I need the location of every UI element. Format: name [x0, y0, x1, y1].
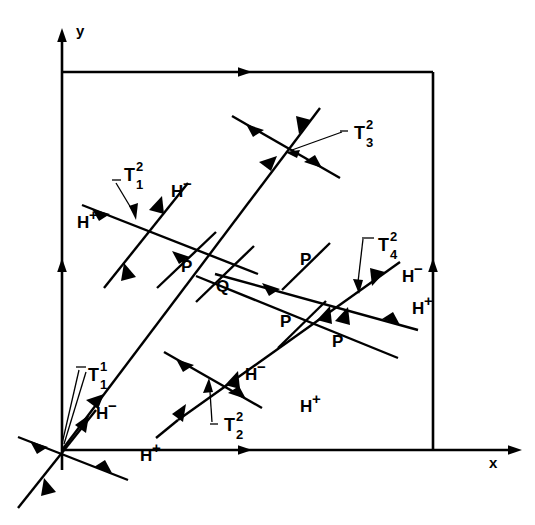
T4-2-arrow-upper-tail: [370, 268, 385, 286]
label-H-1-base: H: [77, 213, 89, 232]
label-point-0: P: [181, 257, 192, 276]
box-left-arrowhead: [57, 258, 67, 272]
T1-2-shallow-line: [82, 205, 258, 274]
label-H-7: H +: [140, 439, 161, 465]
box-bottom-arrowhead: [238, 445, 252, 455]
diagram-canvas: y x T 1 1 T 1 2 T 2 2 T 3: [0, 0, 535, 525]
secondary-diagonal-group: [196, 274, 418, 358]
y-axis-label: y: [76, 22, 85, 39]
x-axis-arrowhead: [508, 445, 522, 455]
origin-steep-line: [18, 410, 96, 508]
label-H-3-base: H: [300, 397, 312, 416]
label-T3-2-base: T: [354, 123, 365, 143]
label-H-1: H +: [77, 206, 98, 232]
box-top-arrowhead: [238, 67, 252, 77]
label-T3-2-sub: 3: [366, 135, 373, 150]
primary-diagonal-ray: [62, 108, 320, 450]
label-H-7-sup: +: [152, 439, 161, 456]
label-H-3-sup: +: [312, 390, 321, 407]
label-H-2: H −: [245, 358, 266, 384]
label-H-1-sup: +: [89, 206, 98, 223]
label-T2-2-base: T: [224, 415, 235, 435]
x-axis-label: x: [489, 454, 498, 471]
label-T4-2-sup: 2: [390, 229, 397, 244]
label-H-6-base: H: [96, 404, 108, 423]
origin-arrow-steep-out: [41, 478, 56, 496]
label-H-7-base: H: [140, 446, 152, 465]
origin-vertex-star: [18, 367, 128, 508]
diagram-figure: y x T 1 1 T 1 2 T 2 2 T 3: [0, 0, 535, 525]
label-T1-2: T 1 2: [124, 159, 143, 192]
Q-shallow-arrow-left: [262, 283, 280, 296]
label-T2-2-sub: 2: [236, 427, 243, 442]
label-T3-2-sup: 2: [366, 117, 373, 132]
T1-2-arrow-up-in: [149, 196, 164, 214]
label-T4-2: T 4 2: [378, 229, 398, 262]
box-right-arrowhead: [428, 258, 438, 272]
label-T1-2-sup: 2: [136, 159, 143, 174]
label-H-5: H +: [412, 292, 433, 318]
label-H-4-sup: −: [414, 260, 423, 277]
label-point-4: P: [332, 332, 343, 351]
label-H-4-base: H: [402, 267, 414, 286]
label-H-2-base: H: [245, 365, 257, 384]
label-T1-2-sub: 1: [136, 177, 143, 192]
axes-frame: [57, 28, 522, 455]
T2-2-lower-tail: [156, 420, 178, 438]
T3-2-arrow-upleft-in: [246, 124, 264, 137]
label-layer: y x T 1 1 T 1 2 T 2 2 T 3: [76, 22, 498, 471]
label-H-6-sup: −: [108, 397, 117, 414]
label-H-0: H −: [171, 175, 192, 201]
label-T2-2-sup: 2: [236, 409, 243, 424]
vertex-T1-2-group: [82, 180, 258, 288]
label-T1-2-base: T: [124, 165, 135, 185]
label-H-5-sup: +: [424, 292, 433, 309]
label-T4-2-base: T: [378, 235, 389, 255]
T4-2-leader-line: [358, 239, 363, 282]
label-point-1: Q: [216, 277, 229, 296]
label-T1-1-sub: 1: [100, 377, 107, 392]
y-axis-arrowhead: [57, 28, 67, 42]
label-H-2-sup: −: [257, 358, 266, 375]
T1-2-leader-arrowhead: [129, 203, 138, 220]
label-T4-2-sub: 4: [390, 247, 398, 262]
label-H-4: H −: [402, 260, 423, 286]
label-T1-1-base: T: [88, 365, 99, 385]
T3-2-arrow-downright-in: [304, 155, 322, 168]
label-T3-2: T 3 2: [354, 117, 373, 150]
label-point-2: P: [300, 250, 311, 269]
label-H-0-sup: −: [183, 175, 192, 192]
label-point-3: P: [280, 312, 291, 331]
label-T1-1: T 1 1: [88, 359, 107, 392]
label-H-0-base: H: [171, 182, 183, 201]
label-T1-1-sup: 1: [100, 359, 107, 374]
label-H-5-base: H: [412, 299, 424, 318]
label-T2-2: T 2 2: [224, 409, 243, 442]
T2-2-arrow-upleft-in: [176, 359, 194, 372]
T2-2-arrow-downright-in: [228, 386, 246, 399]
origin-arrow-shallow-in: [30, 441, 48, 454]
label-H-3: H +: [300, 390, 321, 416]
